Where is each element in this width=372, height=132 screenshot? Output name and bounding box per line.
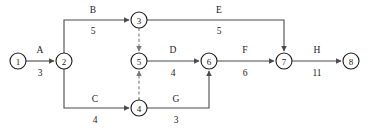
edge-duration-h: 11 bbox=[312, 68, 321, 78]
node-5[interactable]: 5 bbox=[131, 53, 147, 69]
edges-layer bbox=[26, 20, 341, 108]
edge-label-e: E bbox=[216, 5, 222, 15]
node-label-3: 3 bbox=[137, 16, 142, 26]
node-2[interactable]: 2 bbox=[56, 53, 72, 69]
edge-duration-b: 5 bbox=[91, 26, 96, 36]
node-label-8: 8 bbox=[349, 57, 354, 67]
edge-e bbox=[147, 20, 284, 51]
node-4[interactable]: 4 bbox=[131, 100, 147, 116]
edge-label-d: D bbox=[170, 45, 177, 55]
edge-label-b: B bbox=[90, 5, 96, 15]
node-7[interactable]: 7 bbox=[276, 53, 292, 69]
nodes-layer: 12345678 bbox=[10, 12, 359, 116]
edge-label-c: C bbox=[92, 94, 98, 104]
edge-duration-f: 6 bbox=[243, 68, 248, 78]
node-3[interactable]: 3 bbox=[131, 12, 147, 28]
edge-duration-a: 3 bbox=[38, 68, 43, 78]
node-label-2: 2 bbox=[62, 57, 67, 67]
edge-label-a: A bbox=[37, 45, 44, 55]
node-label-4: 4 bbox=[137, 104, 142, 114]
node-6[interactable]: 6 bbox=[201, 53, 217, 69]
edge-label-f: F bbox=[242, 45, 247, 55]
edge-label-g: G bbox=[173, 94, 180, 104]
edge-duration-g: 3 bbox=[174, 115, 179, 125]
edge-b bbox=[64, 20, 129, 53]
edge-label-h: H bbox=[314, 45, 321, 55]
node-8[interactable]: 8 bbox=[343, 53, 359, 69]
node-1[interactable]: 1 bbox=[10, 53, 26, 69]
edge-duration-e: 5 bbox=[217, 26, 222, 36]
node-label-5: 5 bbox=[137, 57, 142, 67]
edge-duration-c: 4 bbox=[93, 115, 98, 125]
edge-duration-d: 4 bbox=[171, 68, 176, 78]
node-label-7: 7 bbox=[282, 57, 287, 67]
diagram-svg: 12345678 A3B5C4D4E5F6G3H11 bbox=[0, 0, 372, 132]
node-label-6: 6 bbox=[207, 57, 212, 67]
node-label-1: 1 bbox=[16, 57, 21, 67]
network-diagram: 12345678 A3B5C4D4E5F6G3H11 bbox=[0, 0, 372, 132]
